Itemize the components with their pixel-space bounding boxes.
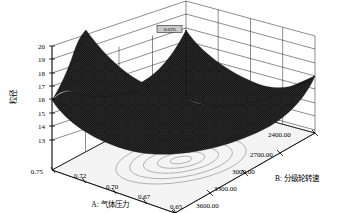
x-tick-label: 0.65 [170,203,183,211]
z-tick-label: 16 [38,96,46,104]
x-tick-label: 0.67 [138,193,151,201]
surface-plot-canvas: 20 19 18 17 16 15 14 13 粒径 0.75 0.72 0.7… [0,0,355,213]
z-axis-title: 粒径 [8,89,18,104]
y-axis-label: B: 分级轮转速 [275,173,320,183]
peak-value-label: 18.8295 [163,27,176,32]
y-tick-label: 3300.00 [214,185,237,193]
z-tick-label: 17 [38,83,46,91]
z-axis-label: 粒径 [8,89,18,104]
z-tick-label: 14 [38,123,46,131]
x-axis-label: A: 气体压力 [91,199,128,209]
peak-value-callout[interactable]: 18.8295 [157,26,182,33]
y-tick-label: 2700.00 [250,151,273,159]
x-tick-label: 0.70 [106,183,119,191]
y-tick-label: 3000.00 [232,168,255,176]
z-axis: 20 19 18 17 16 15 14 13 [38,43,55,171]
z-tick-label: 13 [38,137,46,145]
z-tick-label: 18 [38,70,46,78]
y-tick-label: 2400.00 [268,131,291,139]
z-tick-label: 19 [38,56,46,64]
x-tick-label: 0.72 [74,172,87,180]
z-tick-label: 15 [38,110,46,118]
y-tick-label: 3600.00 [196,202,219,210]
x-tick-label: 0.75 [31,168,44,176]
z-tick-label: 20 [38,43,46,51]
